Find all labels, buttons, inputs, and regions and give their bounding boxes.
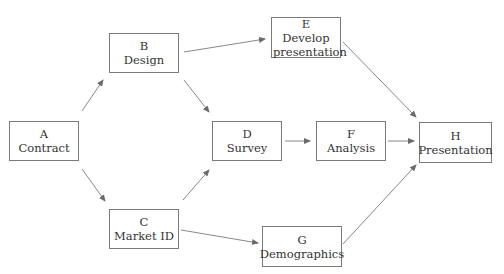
- node-c: CMarket ID: [109, 209, 179, 249]
- node-label: Presentation: [418, 143, 492, 157]
- node-id: C: [140, 215, 149, 229]
- arrow-a-to-b: [82, 80, 103, 111]
- node-f: FAnalysis: [316, 121, 386, 161]
- node-label: Contract: [18, 141, 69, 155]
- node-id: E: [302, 17, 310, 31]
- node-id: B: [140, 39, 148, 53]
- node-label: Design: [124, 53, 164, 67]
- node-id: G: [297, 233, 306, 247]
- arrow-a-to-c: [82, 169, 105, 201]
- node-id: H: [450, 129, 460, 143]
- node-e: EDevelop presentation: [271, 17, 341, 58]
- network-diagram: AContractBDesignCMarket IDDSurveyEDevelo…: [0, 0, 504, 274]
- node-a: AContract: [9, 121, 79, 161]
- node-label: Analysis: [327, 141, 375, 155]
- arrow-g-to-h: [343, 165, 416, 244]
- node-label: Survey: [227, 141, 268, 155]
- node-h: HPresentation: [419, 122, 492, 163]
- arrow-b-to-e: [184, 39, 265, 52]
- node-id: F: [347, 127, 355, 141]
- node-d: DSurvey: [212, 121, 282, 161]
- node-g: GDemographics: [262, 226, 342, 267]
- node-label: Market ID: [114, 229, 174, 243]
- node-id: D: [242, 127, 251, 141]
- arrow-b-to-d: [184, 80, 209, 112]
- node-b: BDesign: [109, 33, 179, 73]
- arrow-e-to-h: [343, 42, 416, 117]
- arrow-c-to-d: [183, 170, 209, 200]
- node-id: A: [40, 127, 48, 141]
- node-label: Develop presentation: [273, 31, 339, 59]
- node-label: Demographics: [260, 247, 344, 261]
- arrow-c-to-g: [181, 230, 258, 243]
